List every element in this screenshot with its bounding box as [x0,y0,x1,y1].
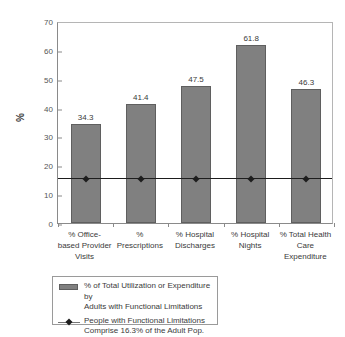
x-axis-tick-mark [224,223,225,227]
y-axis-tick-label: 40 [44,106,58,114]
bar-swatch-icon [58,282,80,293]
x-axis-category-label: % Prescriptions [112,229,167,251]
legend-item-line: People with Functional Limitations Compr… [58,316,212,337]
y-axis-tick-label: 70 [44,19,58,27]
reference-line [58,178,332,179]
y-axis-title: % [15,113,26,122]
bar[interactable] [181,86,211,223]
x-axis-category-label: % Hospital Nights [223,229,278,251]
bar-value-label: 61.8 [243,35,259,43]
x-axis-tick-mark [279,223,280,227]
legend-label-bar: % of Total Utilization or Expenditure by… [84,281,212,313]
bar[interactable] [291,89,321,223]
bar-value-label: 46.3 [299,79,315,87]
y-axis-tick-label: 10 [44,192,58,200]
bars-group: 34.341.447.561.846.3 [58,23,332,223]
bar-value-label: 34.3 [78,114,94,122]
bar-slot: 34.3 [58,23,113,223]
y-axis-tick-label: 0 [49,221,58,229]
x-axis-tick-mark [334,223,335,227]
y-axis-tick-label: 50 [44,77,58,85]
bar[interactable] [236,45,266,223]
x-axis-tick-mark [58,223,59,227]
x-axis-category-label: % Office- based Provider Visits [57,229,112,262]
x-axis-tick-mark [113,223,114,227]
bar-slot: 46.3 [279,23,334,223]
plot-area: 010203040506070 34.341.447.561.846.3 [57,22,333,224]
legend-label-line: People with Functional Limitations Compr… [84,316,205,337]
bar-slot: 41.4 [113,23,168,223]
legend-item-bar: % of Total Utilization or Expenditure by… [58,281,212,313]
x-axis-tick-mark [168,223,169,227]
y-axis-tick-label: 60 [44,48,58,56]
bar[interactable] [126,104,156,223]
x-axis-category-label: % Hospital Discharges [167,229,222,251]
chart-legend: % of Total Utilization or Expenditure by… [52,276,218,325]
bar-slot: 61.8 [224,23,279,223]
bar-slot: 47.5 [168,23,223,223]
line-diamond-marker-icon [58,317,80,328]
bar-value-label: 41.4 [133,94,149,102]
y-axis-tick-label: 30 [44,134,58,142]
x-axis-category-label: % Total Health Care Expenditure [278,229,333,262]
bar-value-label: 47.5 [188,76,204,84]
y-axis-tick-label: 20 [44,163,58,171]
bar[interactable] [71,124,101,223]
